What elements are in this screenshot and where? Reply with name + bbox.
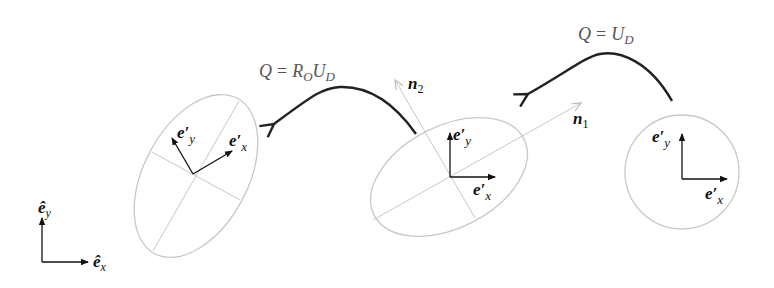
reference-frame: êy êx (38, 198, 107, 274)
n2-label: n2 (408, 74, 423, 96)
rotated-ellipse-minor-axis (152, 152, 240, 200)
reference-circle: e′y e′x (625, 115, 739, 229)
ex-hat-label: êx (93, 252, 107, 274)
diagram-canvas: êy êx e′y e′x e′y e′x n2 n1 e′y e′x Q=UD (0, 0, 774, 288)
stretched-ex-label: e′x (473, 180, 491, 203)
stretched-ey-label: e′y (453, 125, 471, 148)
transform-stretch: Q=UD (528, 24, 672, 101)
rotate-stretch-curved-arrow (274, 87, 416, 134)
rotate-stretch-label: Q=ROUD (259, 61, 336, 84)
circle-ey-label: e′y (652, 127, 670, 150)
stretch-label: Q=UD (578, 24, 634, 47)
ey-hat-label: êy (38, 198, 52, 220)
n2-axis-arrow (395, 80, 475, 218)
rotated-ellipse: e′y e′x (109, 74, 283, 278)
stretch-curved-arrow (528, 53, 672, 101)
transform-rotate-stretch: Q=ROUD (259, 61, 416, 134)
rotated-ey-label: e′y (177, 123, 195, 146)
rotated-ex-label: e′x (229, 131, 247, 154)
n1-label: n1 (573, 109, 588, 131)
circle-ex-label: e′x (705, 184, 723, 207)
rotated-ex-arrow (193, 151, 232, 174)
